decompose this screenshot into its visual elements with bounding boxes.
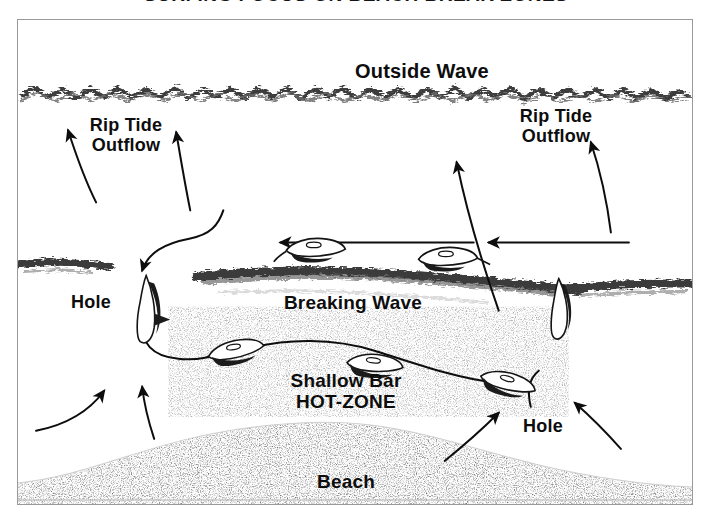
label-shallow-bar: Shallow Bar HOT-ZONE xyxy=(291,370,402,413)
left-shore-foam xyxy=(20,261,110,272)
arrow-rip-right-outer xyxy=(591,142,611,232)
label-rip-tide-outflow-right-line2: Outflow xyxy=(520,126,592,146)
arrow-beach-left-1 xyxy=(36,391,104,431)
right-shore-foam xyxy=(567,284,691,296)
label-breaking-wave: Breaking Wave xyxy=(284,292,422,313)
page-title-band: SURFING FOCUS ON BEACH BREAK ZONES xyxy=(0,0,712,9)
diagram-canvas xyxy=(18,20,692,504)
label-rip-tide-outflow-right: Rip Tide Outflow xyxy=(520,106,592,146)
label-outside-wave: Outside Wave xyxy=(355,60,489,82)
label-rip-tide-outflow-right-line1: Rip Tide xyxy=(520,106,592,126)
arrow-beach-left-2 xyxy=(142,387,154,439)
label-rip-tide-outflow-left-line1: Rip Tide xyxy=(90,115,162,135)
arrow-rip-left-inner xyxy=(176,132,190,210)
arrow-right-hole-right xyxy=(575,403,621,449)
label-beach: Beach xyxy=(317,471,375,492)
surfer-left-hole xyxy=(137,276,170,343)
label-shallow-bar-line2: HOT-ZONE xyxy=(291,391,402,412)
label-rip-tide-outflow-left-line2: Outflow xyxy=(90,135,162,155)
label-hole-right: Hole xyxy=(523,416,563,436)
label-shallow-bar-line1: Shallow Bar xyxy=(291,370,402,391)
page-title: SURFING FOCUS ON BEACH BREAK ZONES xyxy=(0,0,712,6)
label-hole-left: Hole xyxy=(71,292,111,312)
arrow-into-left-hole xyxy=(142,210,223,270)
label-rip-tide-outflow-left: Rip Tide Outflow xyxy=(90,115,162,155)
diagram-frame: Outside Wave Rip Tide Outflow Rip Tide O… xyxy=(17,19,693,505)
outside-wave-foam xyxy=(20,88,691,101)
